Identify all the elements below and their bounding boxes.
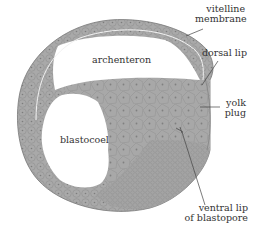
label-yolk-plug: yolk plug [210,98,246,118]
label-vitelline-membrane: vitelline membrane [195,4,245,24]
label-dorsal-lip: dorsal lip [195,48,247,58]
label-ventral-lip: ventral lip of blastopore [180,203,248,223]
label-yolk-line2: plug [210,108,246,118]
gastrula-diagram: vitelline membrane dorsal lip archentero… [0,0,258,228]
label-vitelline-line2: membrane [195,14,245,24]
label-blastocoel: blastocoel [60,135,109,145]
label-archenteron: archenteron [92,55,151,65]
label-ventral-line2: of blastopore [180,213,248,223]
